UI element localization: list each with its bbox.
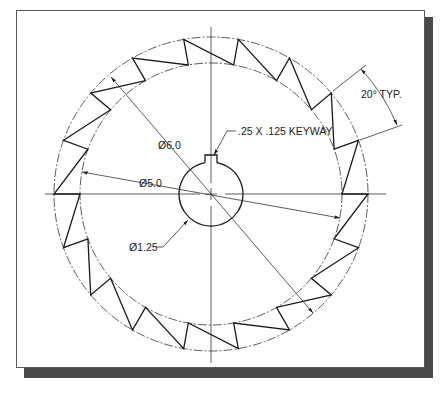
angle-dimension [333,65,402,140]
ratchet-wheel-drawing: Ø6.0 Ø5.0 Ø1.25 .25 X .125 KEYWAY 20° TY… [0,0,443,394]
angle-label: 20° TYP. [361,88,402,100]
root-diameter-label: Ø5.0 [139,177,162,189]
keyway-leader [214,131,236,155]
outer-diameter-label: Ø6.0 [158,139,181,151]
centerlines [45,27,386,363]
angle-extension-line-2 [360,125,402,140]
keyway-label: .25 X .125 KEYWAY [238,125,333,137]
bore-diameter-leader [156,220,188,247]
bore-diameter-label: Ø1.25 [129,241,158,253]
